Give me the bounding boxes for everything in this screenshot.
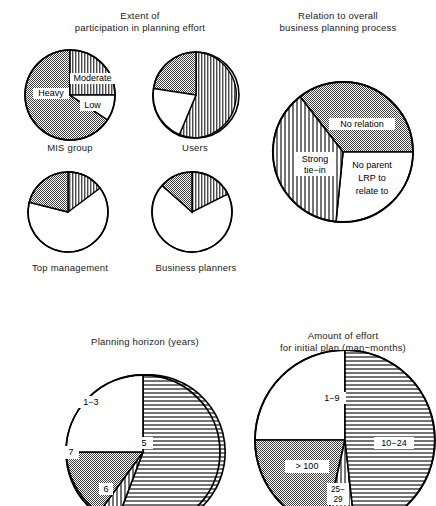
svg-text:Strong: Strong [302,154,329,164]
pie-label-horizon-5: 5 [141,438,146,448]
pie-chart-figure: Extent of participation in planning effo… [0,0,436,506]
svg-text:No parent: No parent [352,160,392,170]
pie-label-effort-gt100: > 100 [296,461,319,471]
pie-business-planners [152,172,232,252]
svg-text:29: 29 [333,495,343,504]
pie-label-effort-25-29: 25− 29 [327,483,349,505]
pie-label-effort-10-24: 10−24 [381,438,406,448]
pie-label-no-relation: No relation [340,119,384,129]
pie-label-horizon-1-3: 1−3 [83,397,98,407]
pie-label-effort-1-9: 1−9 [324,393,339,403]
pie-label-horizon-6: 6 [103,484,108,494]
pie-mis-group: Heavy Moderate Low [25,50,115,140]
pie-label-heavy: Heavy [38,88,64,98]
svg-text:LRP to: LRP to [358,173,385,183]
pie-slice-effort-10-24 [345,350,435,506]
pie-label-low: Low [84,100,101,110]
svg-text:relate to: relate to [356,186,389,196]
svg-text:25−: 25− [331,485,345,494]
pie-label-strong-tie-in: Strong tie−in [294,152,336,176]
svg-text:tie−in: tie−in [304,165,326,175]
pie-top-management [28,172,108,252]
pie-relation-to-business-planning: No relation No parent LRP to relate to S… [273,82,413,222]
pies-svg: Heavy Moderate Low [0,0,436,506]
pie-users [153,52,239,138]
pie-label-moderate: Moderate [73,73,111,83]
pie-planning-horizon: 1−3 5 7 6 [63,375,225,506]
pie-amount-of-effort: 1−9 10−24 > 100 25− 29 [255,350,435,506]
pie-label-horizon-7: 7 [68,447,73,457]
pie-slice-horizon-1-3 [66,375,143,452]
